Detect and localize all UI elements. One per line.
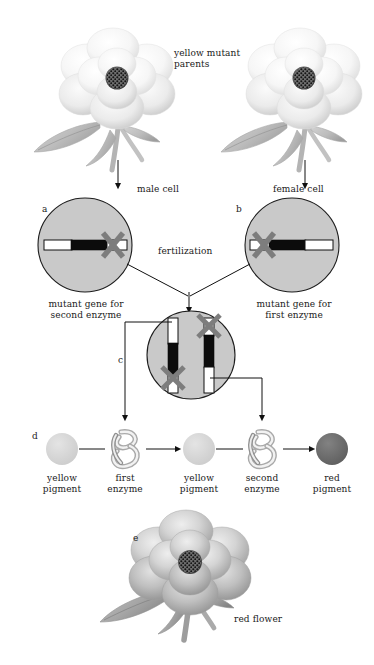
mutant-gene-first-enzyme-label: mutant gene for first enzyme [224,299,364,321]
mutant-gene-second-enzyme-label: mutant gene for second enzyme [16,299,156,321]
fertilization-label: fertilization [158,246,212,257]
offspring-flower-red [100,510,251,640]
parents-label: yellow mutant parents [174,48,240,70]
panel-tag-e: e [133,534,138,543]
pathway-yellow-pigment-2 [183,433,215,465]
male-cell-label: male cell [137,184,179,195]
panel-tag-a: a [42,205,47,214]
pathway-red-pigment [316,433,348,465]
parent-flower-left [34,28,175,170]
pathway-label-second-enzyme: second enzyme [226,473,298,495]
figure-canvas: yellow mutant parents male cell female c… [0,0,374,665]
cell-zygote [147,311,235,399]
pathway-first-enzyme [113,432,137,467]
parent-flower-right [221,28,362,170]
pathway-label-yellow-pigment-1: yellow pigment [24,473,100,495]
pathway-yellow-pigment-1 [46,433,78,465]
red-flower-label: red flower [234,614,282,625]
pathway-label-red-pigment: red pigment [298,473,366,495]
panel-tag-c: c [118,356,123,365]
pathway-label-first-enzyme: first enzyme [90,473,160,495]
female-cell-label: female cell [273,184,324,195]
pathway-second-enzyme [250,432,274,467]
cell-male [38,198,132,292]
panel-tag-d: d [32,432,38,441]
figure-graphics [0,0,374,665]
cell-female [245,198,339,292]
panel-tag-b: b [236,205,242,214]
